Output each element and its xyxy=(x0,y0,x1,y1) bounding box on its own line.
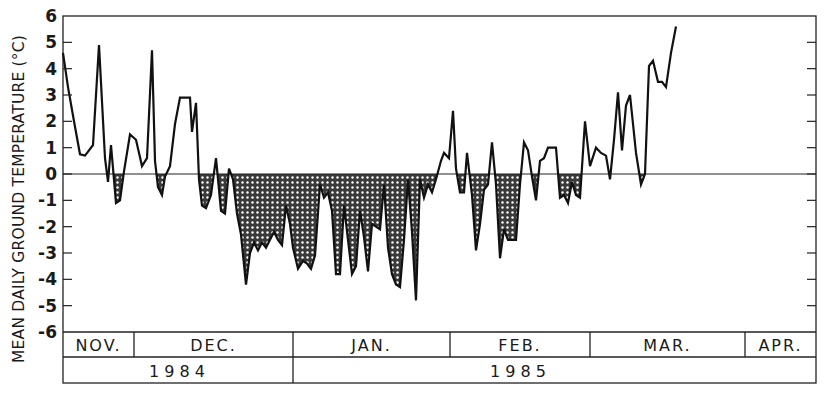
y-tick-label: -1 xyxy=(38,190,57,210)
temperature-chart: 6543210-1-2-3-4-5-6 NOV.DEC.JAN.FEB.MAR.… xyxy=(0,0,826,397)
y-tick-label: 1 xyxy=(45,138,57,158)
month-axis-row: NOV.DEC.JAN.FEB.MAR.APR. xyxy=(63,332,816,357)
year-label: 1 9 8 4 xyxy=(149,362,205,381)
month-label: MAR. xyxy=(643,336,691,355)
month-label: NOV. xyxy=(75,336,121,355)
month-label: JAN. xyxy=(350,336,391,355)
temperature-line xyxy=(63,27,676,301)
y-tick-label: 0 xyxy=(45,164,57,184)
month-label: DEC. xyxy=(190,336,237,355)
month-label: APR. xyxy=(758,336,802,355)
plot-border xyxy=(63,16,816,383)
plot-frame xyxy=(63,16,816,383)
temperature-polyline xyxy=(63,27,676,301)
y-tick-label: 6 xyxy=(45,6,57,26)
y-tick-label: -4 xyxy=(38,269,57,289)
y-tick-label: -2 xyxy=(38,217,57,237)
y-tick-label: 4 xyxy=(45,59,57,79)
y-tick-label: 5 xyxy=(45,32,57,52)
year-axis-row: 1 9 8 41 9 8 5 xyxy=(149,357,546,383)
year-label: 1 9 8 5 xyxy=(490,362,546,381)
below-zero-hatched-area xyxy=(107,174,645,300)
y-tick-label: 2 xyxy=(45,111,57,131)
y-tick-label: -3 xyxy=(38,243,57,263)
month-label: FEB. xyxy=(498,336,541,355)
y-tick-label: -5 xyxy=(38,296,57,316)
y-tick-label: -6 xyxy=(38,322,57,342)
y-tick-label: 3 xyxy=(45,85,57,105)
